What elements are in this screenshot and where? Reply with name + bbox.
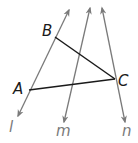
diagram-canvas: B A C l m n xyxy=(0,0,138,143)
line-m xyxy=(64,8,90,122)
segment-bc xyxy=(55,37,115,79)
label-line-m: m xyxy=(56,122,71,140)
line-n xyxy=(102,8,125,122)
label-point-c: C xyxy=(118,72,129,90)
label-line-n: n xyxy=(122,122,132,140)
label-point-a: A xyxy=(12,80,23,98)
label-point-b: B xyxy=(42,22,52,40)
label-line-l: l xyxy=(9,118,14,136)
geometry-diagram: B A C l m n xyxy=(0,0,138,143)
